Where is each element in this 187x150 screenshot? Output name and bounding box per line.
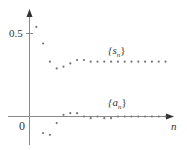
data-point: [76, 59, 78, 61]
data-point: [83, 59, 85, 61]
data-point: [130, 115, 132, 117]
data-point: [103, 61, 105, 63]
data-point: [124, 61, 126, 63]
data-point: [62, 114, 64, 116]
series-a-label-text: {a: [108, 96, 118, 108]
data-point: [117, 61, 119, 63]
data-point: [144, 115, 146, 117]
series-s-label-text: {s: [108, 44, 117, 56]
data-point: [164, 115, 166, 117]
data-point: [103, 117, 105, 119]
series-s-label: {sn}: [108, 45, 125, 59]
data-point: [164, 61, 166, 63]
y-axis: [26, 9, 33, 145]
data-point: [96, 115, 98, 117]
origin-label: 0: [19, 120, 25, 132]
series-a-label-close: }: [121, 96, 126, 108]
data-point: [110, 61, 112, 63]
data-point: [69, 62, 71, 64]
data-point: [42, 42, 44, 44]
series-a-label: {an}: [108, 97, 127, 111]
x-axis-label: n: [171, 121, 177, 132]
data-point: [42, 132, 44, 134]
data-point: [137, 115, 139, 117]
data-point: [56, 67, 58, 69]
data-point: [158, 115, 160, 117]
data-point: [110, 117, 112, 119]
data-point: [83, 115, 85, 117]
y-axis-arrow-icon: [27, 9, 33, 17]
data-point: [56, 122, 58, 124]
data-point: [69, 112, 71, 114]
data-point: [124, 115, 126, 117]
series-a-points: [42, 112, 167, 136]
data-point: [144, 61, 146, 63]
data-point: [49, 134, 51, 136]
data-point: [151, 115, 153, 117]
data-point: [90, 117, 92, 119]
x-axis-arrow-icon: [166, 114, 174, 120]
y-tick-label-0.5: 0.5: [9, 28, 23, 39]
data-point: [76, 112, 78, 114]
data-point: [130, 61, 132, 63]
data-point: [96, 61, 98, 63]
data-point: [49, 61, 51, 63]
data-point: [90, 61, 92, 63]
data-point: [62, 66, 64, 68]
data-point: [158, 61, 160, 63]
series-s-points: [35, 26, 166, 70]
data-point: [35, 26, 37, 28]
sequence-chart: [0, 0, 187, 150]
series-s-label-close: }: [120, 44, 125, 56]
data-point: [151, 61, 153, 63]
data-point: [137, 61, 139, 63]
data-point: [117, 115, 119, 117]
